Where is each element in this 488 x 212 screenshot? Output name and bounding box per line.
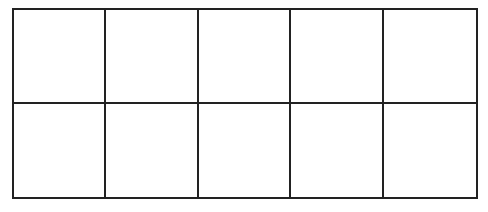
grid-cell-r1-c1: [14, 10, 106, 104]
grid-cell-r2-c5: [384, 104, 476, 198]
grid-cell-r1-c4: [291, 10, 383, 104]
grid-cell-r1-c5: [384, 10, 476, 104]
grid-cell-r1-c2: [106, 10, 198, 104]
grid-cell-r2-c2: [106, 104, 198, 198]
grid-cell-r1-c3: [199, 10, 291, 104]
grid-cell-r2-c4: [291, 104, 383, 198]
empty-grid: [12, 8, 478, 199]
grid-cell-r2-c3: [199, 104, 291, 198]
grid-cell-r2-c1: [14, 104, 106, 198]
